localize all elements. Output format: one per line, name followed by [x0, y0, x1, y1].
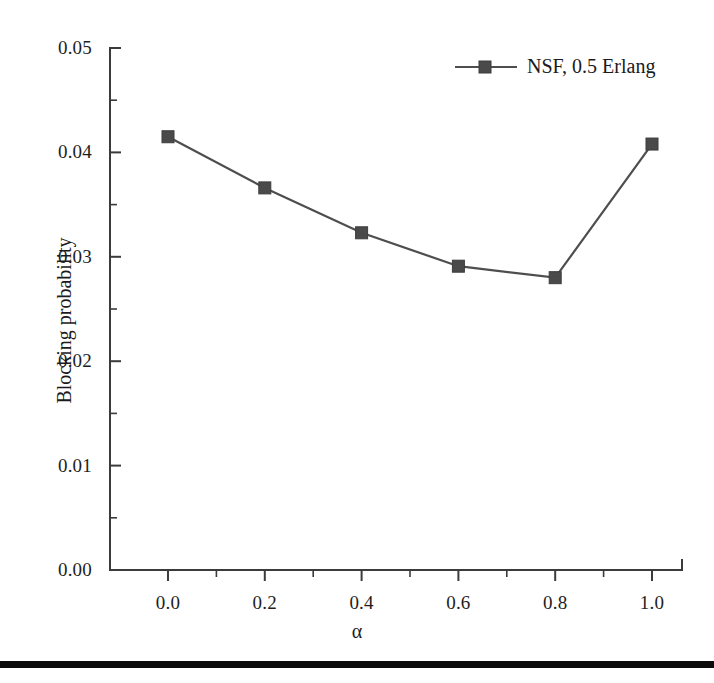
x-tick-label: 0.2	[253, 592, 277, 614]
y-tick-label: 0.01	[0, 455, 92, 477]
plot-area	[0, 0, 714, 683]
x-axis-label-text: α	[352, 620, 362, 642]
y-tick-label: 0.00	[0, 559, 92, 581]
data-point-marker	[356, 227, 368, 239]
data-point-marker	[162, 131, 174, 143]
figure-canvas: 0.000.010.020.030.040.05 0.00.20.40.60.8…	[0, 0, 714, 683]
legend: NSF, 0.5 Erlang	[455, 55, 655, 78]
page-bottom-rule	[0, 661, 714, 668]
x-tick-label: 0.6	[446, 592, 470, 614]
x-tick-label: 1.0	[640, 592, 664, 614]
x-tick-label: 0.0	[156, 592, 180, 614]
x-tick-label: 0.4	[349, 592, 373, 614]
y-tick-label: 0.03	[0, 246, 92, 268]
legend-entry-label: NSF, 0.5 Erlang	[527, 55, 655, 78]
x-axis-label: α	[0, 620, 714, 643]
series-line-nsf-0-5-erlang	[168, 137, 652, 278]
y-tick-label: 0.04	[0, 141, 92, 163]
data-point-marker	[646, 138, 658, 150]
data-point-marker	[452, 260, 464, 272]
legend-marker-swatch	[455, 58, 517, 76]
axis-spines	[110, 48, 682, 570]
data-point-marker	[259, 182, 271, 194]
data-point-marker	[549, 272, 561, 284]
y-axis-label: Blocking probability	[53, 191, 76, 451]
y-tick-label: 0.05	[0, 37, 92, 59]
y-tick-label: 0.02	[0, 350, 92, 372]
x-tick-label: 0.8	[543, 592, 567, 614]
